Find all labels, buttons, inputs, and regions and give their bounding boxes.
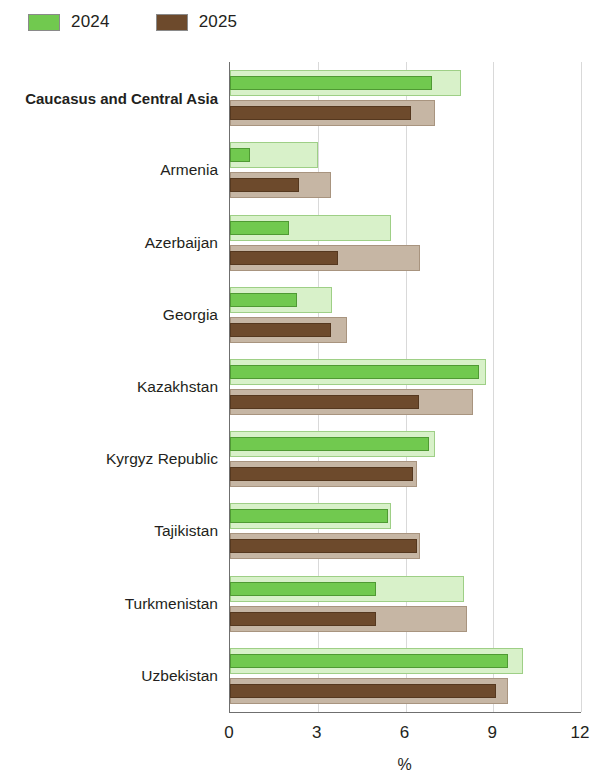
category-row: Kyrgyz Republic	[230, 423, 581, 495]
x-tick-label: 12	[571, 724, 590, 741]
x-tick-label: 0	[224, 724, 233, 741]
bar-2024	[230, 148, 250, 162]
x-tick-label: 6	[400, 724, 409, 741]
category-label: Azerbaijan	[145, 235, 218, 251]
bar-2024	[230, 437, 429, 451]
category-row: Azerbaijan	[230, 206, 581, 278]
bar-2024	[230, 293, 297, 307]
bar-2024	[230, 582, 376, 596]
category-row: Uzbekistan	[230, 640, 581, 712]
gridline-12	[581, 62, 582, 712]
bar-2024	[230, 654, 508, 668]
legend-label-2025: 2025	[199, 12, 238, 32]
category-label: Georgia	[163, 307, 218, 323]
category-label: Tajikistan	[154, 524, 218, 540]
x-tick-label: 3	[312, 724, 321, 741]
category-row: Caucasus and Central Asia	[230, 62, 581, 134]
bar-2024	[230, 365, 479, 379]
category-row: Kazakhstan	[230, 351, 581, 423]
bar-2025	[230, 539, 417, 553]
category-label: Uzbekistan	[141, 668, 218, 684]
category-row: Turkmenistan	[230, 568, 581, 640]
bar-2025	[230, 323, 331, 337]
bar-chart: Caucasus and Central AsiaArmeniaAzerbaij…	[0, 44, 591, 760]
category-label: Turkmenistan	[125, 596, 218, 612]
category-label: Kyrgyz Republic	[106, 451, 218, 467]
x-tick-label: 9	[488, 724, 497, 741]
bar-2025	[230, 106, 411, 120]
bar-2025	[230, 684, 496, 698]
category-label: Caucasus and Central Asia	[25, 91, 218, 106]
bar-2025	[230, 395, 419, 409]
category-label: Armenia	[160, 163, 218, 179]
category-row: Georgia	[230, 279, 581, 351]
bar-2025	[230, 251, 338, 265]
category-row: Tajikistan	[230, 495, 581, 567]
category-row: Armenia	[230, 134, 581, 206]
legend-item-2025: 2025	[156, 12, 238, 32]
legend-swatch-2024	[28, 14, 60, 31]
bar-2024	[230, 221, 289, 235]
legend-swatch-2025	[156, 14, 188, 31]
bar-2025	[230, 612, 376, 626]
bar-2024	[230, 509, 388, 523]
legend-label-2024: 2024	[71, 12, 110, 32]
bar-2025	[230, 178, 299, 192]
chart-legend: 2024 2025	[0, 0, 591, 44]
x-axis-label: %	[397, 756, 411, 774]
legend-item-2024: 2024	[28, 12, 110, 32]
bar-2024	[230, 76, 432, 90]
bar-2025	[230, 467, 413, 481]
category-label: Kazakhstan	[137, 379, 218, 395]
plot-area: Caucasus and Central AsiaArmeniaAzerbaij…	[229, 62, 581, 713]
